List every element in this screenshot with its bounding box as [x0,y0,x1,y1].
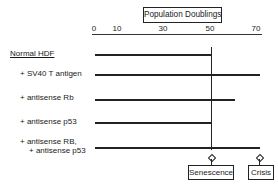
tick-label-30: 30 [159,24,168,33]
row-label-sv40: + SV40 T antigen [20,69,82,79]
axis-title-box: Population Doublings [143,7,222,23]
x-axis-line [92,34,262,35]
lifespan-bar-antisense-p53 [95,122,212,124]
lifespan-bar-sv40 [95,74,260,76]
row-label-normal-hdf: Normal HDF [10,49,54,59]
crisis-box: Crisis [248,165,274,180]
senescence-label: Senescence [189,168,233,177]
row-label-antisense-rb-p53-line2: + antisense p53 [29,146,86,156]
tick-label-10: 10 [113,24,122,33]
senescence-box: Senescence [188,165,234,180]
senescence-diamond-icon [208,154,216,162]
tick-label-70: 70 [252,24,261,33]
lifespan-bar-normal-hdf [95,54,212,56]
row-label-antisense-rb: + antisense Rb [20,93,74,103]
axis-title: Population Doublings [144,10,221,19]
crisis-label: Crisis [251,168,271,177]
lifespan-bar-antisense-rb-p53 [95,147,260,149]
tick-label-50: 50 [206,24,215,33]
lifespan-bar-antisense-rb [95,99,235,101]
tick-label-0: 0 [92,24,96,33]
crisis-diamond-icon [256,154,264,162]
row-label-antisense-p53: + antisense p53 [20,117,77,127]
